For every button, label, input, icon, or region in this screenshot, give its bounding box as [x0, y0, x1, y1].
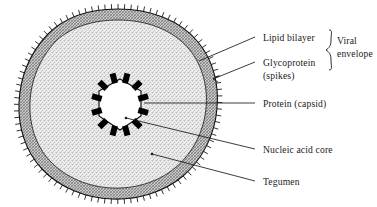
- leader-glycoprotein: [213, 62, 255, 79]
- glycoprotein-spike: [194, 34, 198, 37]
- glycoprotein-spike: [18, 136, 23, 137]
- glycoprotein-spike: [49, 178, 52, 182]
- glycoprotein-spike: [213, 69, 218, 70]
- glycoprotein-spike: [72, 12, 74, 17]
- virus-diagram-canvas: Lipid bilayer Glycoprotein (spikes) Vira…: [0, 0, 377, 207]
- glycoprotein-spike: [98, 198, 99, 203]
- glycoprotein-spike: [44, 31, 48, 35]
- glycoprotein-spike: [144, 7, 145, 12]
- glycoprotein-spike: [79, 10, 81, 15]
- glycoprotein-spike: [98, 5, 99, 10]
- glycoprotein-spike: [173, 183, 176, 187]
- glycoprotein-spike: [60, 18, 62, 22]
- glycoprotein-spike: [131, 198, 132, 203]
- glycoprotein-spike: [85, 195, 86, 200]
- label-lipid-bilayer: Lipid bilayer: [263, 32, 315, 43]
- label-nucleic-acid-core: Nucleic acid core: [263, 144, 333, 155]
- glycoprotein-spike: [188, 172, 191, 176]
- nucleic-acid-core-anchor-dot: [125, 117, 128, 120]
- glycoprotein-spike: [15, 91, 20, 92]
- glycoprotein-spike: [216, 82, 221, 83]
- glycoprotein-spike: [30, 159, 34, 162]
- glycoprotein-spike: [31, 47, 35, 50]
- glycoprotein-spike: [185, 25, 188, 29]
- glycoprotein-spike: [25, 59, 29, 61]
- glycoprotein-spike: [167, 187, 169, 191]
- glycoprotein-spike: [18, 78, 23, 79]
- glycoprotein-spike: [14, 98, 19, 99]
- glycoprotein-spike: [192, 167, 196, 170]
- glycoprotein-spike: [204, 151, 208, 154]
- glycoprotein-spike: [198, 39, 202, 42]
- label-tegumen: Tegumen: [263, 176, 300, 187]
- glycoprotein-spike: [21, 142, 26, 144]
- glycoprotein-spike: [196, 162, 200, 165]
- glycoprotein-spike: [39, 36, 43, 39]
- glycoprotein-spike: [178, 180, 181, 184]
- label-protein-capsid: Protein (capsid): [263, 98, 326, 110]
- glycoprotein-spike: [20, 71, 25, 73]
- glycoprotein-spike: [216, 115, 221, 116]
- glycoprotein-spike: [156, 10, 158, 15]
- label-glycoprotein-spikes: (spikes): [263, 70, 295, 82]
- glycoprotein-spike: [54, 182, 57, 186]
- glycoprotein-spike: [16, 84, 21, 85]
- glycoprotein-spike: [214, 128, 219, 129]
- glycoprotein-spike: [35, 41, 39, 44]
- glycoprotein-spike: [215, 121, 220, 122]
- glycoprotein-spike: [211, 63, 216, 65]
- glycoprotein-spike: [131, 5, 132, 10]
- glycoprotein-spike: [54, 22, 57, 26]
- glycoprotein-spike: [200, 157, 204, 160]
- glycoprotein-spike: [85, 8, 86, 13]
- glycoprotein-spike: [174, 18, 176, 22]
- glycoprotein-spike: [78, 193, 80, 198]
- glycoprotein-spike: [156, 192, 158, 197]
- glycoprotein-spike: [49, 26, 52, 30]
- glycoprotein-spike: [66, 15, 68, 20]
- label-glycoprotein: Glycoprotein: [263, 57, 315, 68]
- glycoprotein-spike: [34, 164, 38, 167]
- glycoprotein-spike: [150, 8, 151, 13]
- glycoprotein-spike: [183, 176, 186, 180]
- glycoprotein-spike: [43, 174, 46, 178]
- glycoprotein-spike: [202, 45, 206, 48]
- glycoprotein-spike: [161, 190, 163, 195]
- glycoprotein-spike: [168, 15, 170, 20]
- glycoprotein-spike: [137, 197, 138, 202]
- glycoprotein-spike: [162, 12, 164, 17]
- glycoprotein-spike: [217, 109, 222, 110]
- glycoprotein-spike: [207, 146, 211, 148]
- leader-lipid-bilayer: [199, 37, 255, 61]
- tegumen-anchor-dot: [151, 153, 154, 156]
- glycoprotein-spike: [104, 199, 105, 204]
- glycoprotein-spike: [28, 53, 32, 55]
- glycoprotein-spike: [206, 51, 210, 53]
- glycoprotein-spike: [92, 7, 93, 12]
- glycoprotein-spike: [91, 196, 92, 201]
- label-viral-envelope-line2: envelope: [337, 48, 373, 59]
- label-viral-envelope-line1: Viral: [337, 35, 357, 46]
- glycoprotein-spike: [39, 169, 43, 172]
- glycoprotein-spike: [189, 29, 192, 33]
- glycoprotein-spike: [15, 124, 20, 125]
- glycoprotein-spike: [22, 65, 27, 67]
- glycoprotein-spike: [209, 140, 214, 142]
- glycoprotein-spike: [149, 194, 150, 199]
- virus-structure-figure: Lipid bilayer Glycoprotein (spikes) Vira…: [0, 0, 377, 207]
- glycoprotein-spike: [17, 130, 22, 131]
- glycoprotein-spike: [23, 148, 28, 150]
- glycoprotein-spike: [137, 5, 138, 10]
- protein-capsid: [91, 73, 149, 136]
- glycoprotein-spike: [72, 191, 74, 196]
- glycoprotein-spike: [26, 154, 30, 156]
- glycoprotein-spike: [179, 21, 182, 25]
- viral-envelope-bracket: [326, 30, 332, 70]
- glycoprotein-spike: [60, 185, 63, 189]
- glycoprotein-spike: [66, 188, 68, 192]
- glycoprotein-spike: [143, 196, 144, 201]
- glycoprotein-spike: [212, 134, 217, 136]
